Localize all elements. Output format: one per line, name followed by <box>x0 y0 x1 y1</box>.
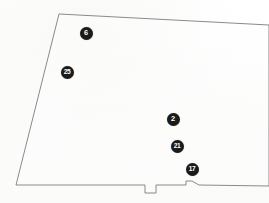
map-canvas: 6 25 2 21 17 <box>0 0 269 203</box>
parcel-boundary-svg <box>0 0 269 203</box>
parcel-outline-path <box>16 14 269 193</box>
map-marker-label: 21 <box>174 143 181 150</box>
map-marker-17[interactable]: 17 <box>186 163 199 176</box>
map-marker-label: 6 <box>84 29 88 36</box>
map-marker-label: 2 <box>171 115 175 122</box>
map-marker-label: 25 <box>64 69 71 76</box>
map-marker-25[interactable]: 25 <box>61 66 74 79</box>
map-marker-2[interactable]: 2 <box>167 113 180 126</box>
map-marker-6[interactable]: 6 <box>80 27 93 40</box>
map-marker-21[interactable]: 21 <box>171 140 184 153</box>
map-marker-label: 17 <box>189 166 196 173</box>
